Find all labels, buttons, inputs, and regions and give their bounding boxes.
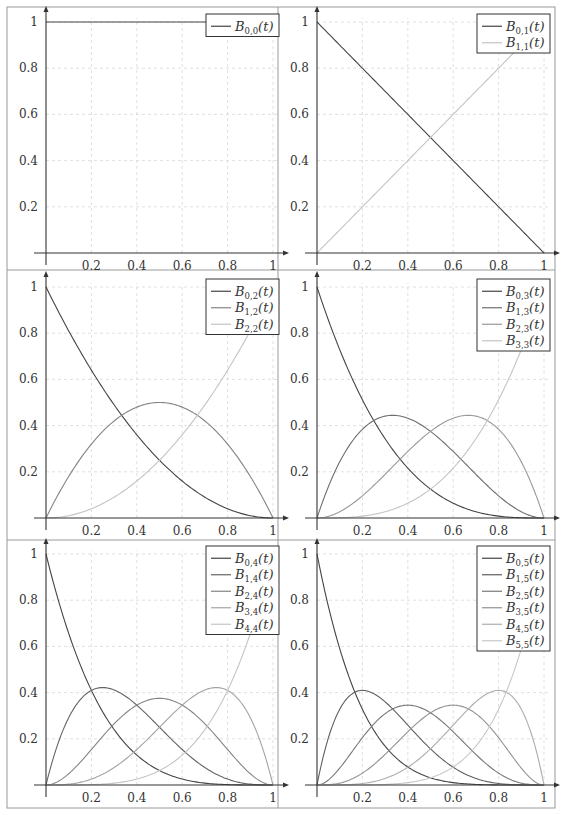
- x-tick-label: 0.6: [173, 259, 192, 273]
- legend: B0,1(t)B1,1(t): [477, 14, 550, 53]
- y-tick-label: 0.6: [290, 639, 309, 653]
- x-tick-label: 0.8: [218, 791, 237, 805]
- y-tick-label: 0.2: [19, 732, 38, 746]
- x-tick-label: 0.4: [398, 791, 417, 805]
- legend: B0,2(t)B1,2(t)B2,2(t): [206, 279, 279, 335]
- y-tick-label: 0.8: [290, 326, 309, 340]
- y-tick-label: 1: [30, 280, 38, 294]
- x-tick-label: 0.4: [398, 524, 417, 538]
- y-tick-label: 0.8: [290, 593, 309, 607]
- chart-panel-degree-2: 0.20.40.60.810.20.40.60.81B0,2(t)B1,2(t)…: [19, 271, 289, 538]
- y-tick-label: 0.2: [290, 732, 309, 746]
- legend: B0,0(t): [206, 14, 279, 37]
- y-tick-label: 0.8: [19, 593, 38, 607]
- y-tick-label: 0.6: [290, 107, 309, 121]
- y-tick-label: 0.8: [19, 61, 38, 75]
- chart-canvas: 0.20.40.60.810.20.40.60.81B0,0(t)0.20.40…: [0, 0, 562, 815]
- x-tick-label: 0.2: [353, 524, 372, 538]
- y-tick-label: 1: [301, 547, 309, 561]
- legend: B0,5(t)B1,5(t)B2,5(t)B3,5(t)B4,5(t)B5,5(…: [477, 546, 550, 651]
- x-tick-label: 0.6: [173, 524, 192, 538]
- x-tick-label: 0.8: [218, 259, 237, 273]
- x-tick-label: 0.6: [444, 791, 463, 805]
- x-tick-label: 0.4: [127, 791, 146, 805]
- y-tick-label: 0.6: [290, 372, 309, 386]
- x-tick-label: 0.8: [218, 524, 237, 538]
- x-axis-arrow-icon: [554, 251, 560, 256]
- y-axis-arrow-icon: [315, 271, 320, 277]
- y-tick-label: 0.4: [290, 154, 309, 168]
- y-tick-label: 0.4: [19, 686, 38, 700]
- y-tick-label: 0.4: [290, 686, 309, 700]
- y-tick-label: 0.4: [19, 154, 38, 168]
- y-tick-label: 0.6: [19, 372, 38, 386]
- y-tick-label: 1: [30, 15, 38, 29]
- x-tick-label: 0.8: [489, 524, 508, 538]
- x-axis-arrow-icon: [283, 516, 289, 521]
- chart-panel-degree-5: 0.20.40.60.810.20.40.60.81B0,5(t)B1,5(t)…: [290, 538, 560, 805]
- x-tick-label: 0.2: [353, 259, 372, 273]
- y-axis-arrow-icon: [315, 538, 320, 544]
- bernstein-figure: 0.20.40.60.810.20.40.60.81B0,0(t)0.20.40…: [0, 0, 562, 815]
- y-tick-label: 0.4: [19, 419, 38, 433]
- x-axis-arrow-icon: [283, 783, 289, 788]
- x-axis-arrow-icon: [554, 783, 560, 788]
- x-tick-label: 0.6: [444, 524, 463, 538]
- x-tick-label: 1: [269, 259, 277, 273]
- x-tick-label: 0.2: [82, 524, 101, 538]
- chart-panel-degree-0: 0.20.40.60.810.20.40.60.81B0,0(t): [19, 6, 289, 273]
- grid: [46, 18, 279, 253]
- x-tick-label: 0.4: [398, 259, 417, 273]
- y-axis-arrow-icon: [44, 538, 49, 544]
- y-tick-label: 0.6: [19, 639, 38, 653]
- x-tick-label: 1: [540, 524, 548, 538]
- x-tick-label: 0.8: [489, 791, 508, 805]
- y-tick-label: 0.2: [290, 200, 309, 214]
- x-tick-label: 0.8: [489, 259, 508, 273]
- series-line-2-4: [46, 698, 273, 785]
- y-tick-label: 1: [301, 280, 309, 294]
- x-tick-label: 0.4: [127, 524, 146, 538]
- series-line-2-5: [317, 705, 544, 785]
- chart-panel-degree-4: 0.20.40.60.810.20.40.60.81B0,4(t)B1,4(t)…: [19, 538, 289, 805]
- series-line-3-5: [317, 705, 544, 785]
- y-tick-label: 0.2: [19, 465, 38, 479]
- x-tick-label: 0.6: [173, 791, 192, 805]
- y-tick-label: 0.8: [290, 61, 309, 75]
- series-line-1-5: [317, 690, 544, 785]
- x-tick-label: 0.4: [127, 259, 146, 273]
- y-tick-label: 0.2: [290, 465, 309, 479]
- x-axis-arrow-icon: [283, 251, 289, 256]
- y-tick-label: 1: [30, 547, 38, 561]
- figure-frame: [7, 7, 555, 808]
- axes: 0.20.40.60.810.20.40.60.81: [19, 6, 289, 273]
- legend: B0,3(t)B1,3(t)B2,3(t)B3,3(t): [477, 279, 550, 351]
- y-tick-label: 0.4: [290, 419, 309, 433]
- y-tick-label: 0.8: [19, 326, 38, 340]
- chart-panel-degree-1: 0.20.40.60.810.20.40.60.81B0,1(t)B1,1(t): [290, 6, 560, 273]
- x-tick-label: 1: [269, 791, 277, 805]
- x-axis-arrow-icon: [554, 516, 560, 521]
- x-tick-label: 1: [540, 259, 548, 273]
- x-tick-label: 0.2: [82, 259, 101, 273]
- x-tick-label: 1: [540, 791, 548, 805]
- x-tick-label: 0.6: [444, 259, 463, 273]
- chart-panel-degree-3: 0.20.40.60.810.20.40.60.81B0,3(t)B1,3(t)…: [290, 271, 560, 538]
- series-line-4-5: [317, 690, 544, 785]
- y-tick-label: 1: [301, 15, 309, 29]
- x-tick-label: 1: [269, 524, 277, 538]
- y-tick-label: 0.2: [19, 200, 38, 214]
- x-tick-label: 0.2: [82, 791, 101, 805]
- y-axis-arrow-icon: [44, 271, 49, 277]
- series-line-2-3: [317, 415, 544, 518]
- y-tick-label: 0.6: [19, 107, 38, 121]
- legend: B0,4(t)B1,4(t)B2,4(t)B3,4(t)B4,4(t): [206, 546, 279, 635]
- x-tick-label: 0.2: [353, 791, 372, 805]
